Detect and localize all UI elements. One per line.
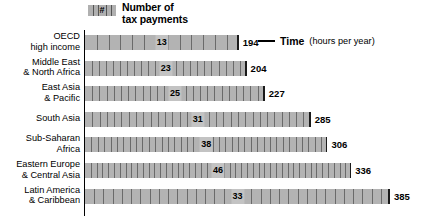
tick-bar-icon: #: [88, 5, 116, 16]
payment-tick: [223, 112, 224, 127]
leader-line-icon: [258, 40, 275, 41]
time-bar: 23: [85, 61, 247, 76]
payment-tick: [345, 163, 346, 178]
payment-tick: [144, 35, 145, 50]
payment-tick: [197, 61, 198, 76]
payment-tick: [190, 61, 191, 76]
payment-tick: [104, 137, 105, 152]
payment-tick: [177, 189, 178, 204]
payment-tick: [97, 163, 98, 178]
bar-container: 38: [85, 137, 327, 152]
bar-container: 13: [85, 35, 239, 50]
payment-tick: [113, 61, 114, 76]
payment-tick: [276, 137, 277, 152]
bar-endcap: [326, 137, 328, 152]
time-annotation-unit: (hours per year): [309, 36, 374, 46]
payment-tick: [288, 163, 289, 178]
bar-container: 31: [85, 112, 311, 127]
payment-tick: [97, 35, 98, 50]
payment-tick: [106, 61, 107, 76]
payment-tick: [164, 86, 165, 101]
payment-tick: [94, 189, 95, 204]
payment-tick: [250, 86, 251, 101]
payment-tick: [289, 112, 290, 127]
payment-tick: [270, 137, 271, 152]
payment-tick: [131, 189, 132, 204]
payment-tick: [270, 189, 271, 204]
time-bar: 31: [85, 112, 311, 127]
bar-container: 25: [85, 86, 265, 101]
payment-tick: [353, 189, 354, 204]
bar-endcap: [388, 189, 390, 204]
payment-tick: [257, 137, 258, 152]
payment-tick: [91, 163, 92, 178]
payment-count-label: 23: [159, 61, 172, 76]
bar-container: 46: [85, 163, 351, 178]
payment-tick: [203, 35, 204, 50]
payment-tick: [92, 112, 93, 127]
payment-tick: [193, 86, 194, 101]
payment-tick: [328, 163, 329, 178]
category-label: Latin America & Caribbean: [0, 185, 80, 206]
bar-endcap: [237, 35, 239, 50]
payment-tick: [189, 163, 190, 178]
payment-tick: [187, 112, 188, 127]
payment-tick: [127, 61, 128, 76]
payment-tick: [143, 86, 144, 101]
chart-row: South Asia31285: [0, 107, 428, 133]
time-value-label: 285: [315, 112, 331, 127]
payment-tick: [180, 35, 181, 50]
payment-tick: [245, 112, 246, 127]
payment-tick: [229, 86, 230, 101]
payment-tick: [155, 137, 156, 152]
payment-tick: [100, 112, 101, 127]
payment-tick: [219, 61, 220, 76]
payment-tick: [305, 163, 306, 178]
payment-tick: [233, 61, 234, 76]
payment-tick: [243, 86, 244, 101]
payment-tick: [149, 137, 150, 152]
payment-tick: [159, 189, 160, 204]
payment-tick: [155, 61, 156, 76]
payment-tick: [114, 86, 115, 101]
bar-container: 33: [85, 189, 390, 204]
payment-tick: [107, 86, 108, 101]
payment-tick: [244, 137, 245, 152]
payment-tick: [122, 189, 123, 204]
payment-count-label: 25: [168, 86, 181, 101]
payment-tick: [321, 137, 322, 152]
chart-row: Middle East & North Africa23204: [0, 56, 428, 82]
payment-count-label: 13: [155, 35, 168, 50]
payment-tick: [157, 86, 158, 101]
payment-tick: [176, 61, 177, 76]
payment-tick: [168, 189, 169, 204]
payment-tick: [91, 137, 92, 152]
payment-tick: [150, 189, 151, 204]
time-value-label: 194: [243, 35, 259, 50]
time-bar: 46: [85, 163, 351, 178]
payment-tick: [134, 61, 135, 76]
payment-tick: [253, 163, 254, 178]
payment-tick: [132, 35, 133, 50]
payment-tick: [211, 61, 212, 76]
payment-tick: [196, 189, 197, 204]
time-value-label: 385: [394, 189, 410, 204]
payment-tick: [99, 86, 100, 101]
payment-tick: [289, 137, 290, 152]
payment-tick: [107, 112, 108, 127]
payment-tick: [162, 137, 163, 152]
payment-tick: [92, 61, 93, 76]
payment-tick: [240, 61, 241, 76]
payment-tick: [111, 137, 112, 152]
bar-endcap: [309, 112, 311, 127]
payment-tick: [334, 163, 335, 178]
chart-row: Latin America & Caribbean33385: [0, 184, 428, 210]
payment-tick: [296, 137, 297, 152]
payment-tick: [154, 163, 155, 178]
payment-count-label: 46: [212, 163, 225, 178]
payment-tick: [261, 189, 262, 204]
payment-tick: [117, 137, 118, 152]
payment-tick: [224, 189, 225, 204]
legend-hash-symbol: #: [88, 5, 116, 16]
time-value-label: 336: [355, 163, 371, 178]
